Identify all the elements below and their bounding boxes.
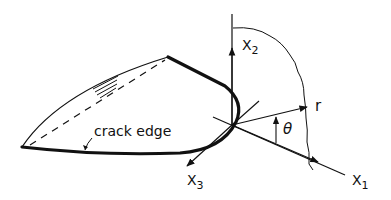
x3-axis-line: [187, 125, 232, 166]
x1-letter: X: [352, 172, 362, 188]
r-label: r: [315, 99, 321, 114]
x1-subscript: 1: [362, 179, 369, 192]
r-vector: [232, 107, 307, 125]
x2-subscript: 2: [252, 44, 259, 57]
crack-edge-label: crack edge: [94, 124, 171, 138]
x2-label: X2: [242, 38, 259, 56]
x3-label: X3: [187, 173, 204, 191]
theta-label: θ: [283, 122, 292, 137]
surface-hatch: [93, 76, 118, 98]
x1-label: X1: [352, 173, 369, 191]
x2-letter: X: [242, 37, 252, 53]
x3-letter: X: [187, 172, 197, 188]
crack-front: [22, 57, 239, 154]
x3-subscript: 3: [197, 179, 204, 192]
crack-diagram: [0, 0, 391, 200]
